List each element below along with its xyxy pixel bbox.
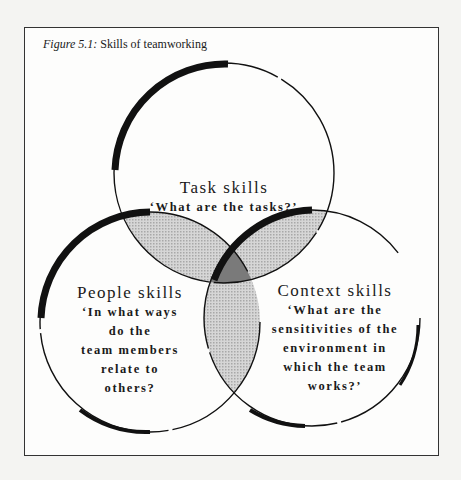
people-line: relate to — [50, 360, 210, 379]
people-title: People skills — [50, 283, 210, 303]
people-line: others? — [50, 379, 210, 398]
venn-diagram — [0, 0, 461, 480]
people-line: team members — [50, 341, 210, 360]
people-skills-label: People skills ‘In what ways do the team … — [50, 283, 210, 398]
task-title: Task skills — [124, 178, 324, 198]
context-line: environment in — [255, 339, 415, 358]
people-line: ‘In what ways — [50, 303, 210, 322]
people-line: do the — [50, 322, 210, 341]
context-line: ‘What are the — [255, 301, 415, 320]
context-skills-label: Context skills ‘What are the sensitiviti… — [255, 281, 415, 396]
task-question: ‘What are the tasks?’ — [124, 198, 324, 217]
context-title: Context skills — [255, 281, 415, 301]
context-line: which the team — [255, 358, 415, 377]
context-line: sensitivities of the — [255, 320, 415, 339]
task-skills-label: Task skills ‘What are the tasks?’ — [124, 178, 324, 217]
context-line: works?’ — [255, 377, 415, 396]
